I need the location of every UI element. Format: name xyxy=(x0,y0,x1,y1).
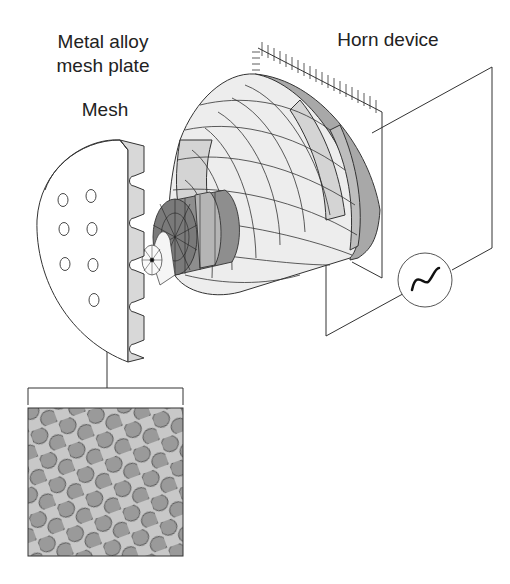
ac-source xyxy=(398,253,452,307)
diagram-canvas xyxy=(0,0,510,584)
mesh-detail-view xyxy=(28,408,183,556)
callout-bracket xyxy=(28,352,183,405)
horn-tip xyxy=(142,232,175,285)
mesh-plate xyxy=(37,140,144,362)
